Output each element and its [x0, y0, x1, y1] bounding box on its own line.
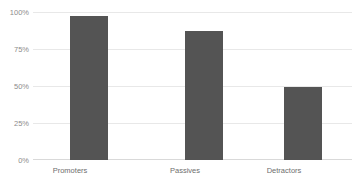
y-axis-tick-label-0: 0%: [0, 156, 29, 165]
gridline-100: [33, 12, 352, 13]
x-axis-label-promoters: Promoters: [25, 166, 115, 176]
x-axis-label-passives: Passives: [140, 166, 230, 176]
bar-promoters[interactable]: [70, 16, 108, 160]
bar-detractors[interactable]: [284, 87, 322, 160]
y-axis-tick-label-100: 100%: [0, 8, 29, 17]
bar-passives[interactable]: [185, 31, 223, 160]
bar-chart: 100% 75% 50% 25% 0% Promoters Passives D…: [0, 0, 362, 187]
plot-area: [33, 12, 352, 160]
y-axis-tick-label-25: 25%: [0, 119, 29, 128]
y-axis-tick-label-50: 50%: [0, 82, 29, 91]
x-axis-label-detractors: Detractors: [239, 166, 329, 176]
chart-title: [0, 0, 362, 5]
y-axis-tick-label-75: 75%: [0, 45, 29, 54]
